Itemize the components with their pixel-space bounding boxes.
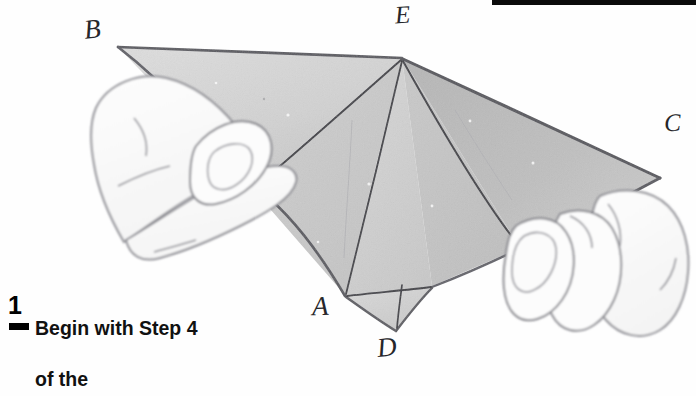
vertex-label-e: E xyxy=(394,1,411,27)
page-root: B E C A D 1 Begin with Step 4 of the Wat… xyxy=(0,0,696,396)
vertex-label-b: B xyxy=(83,15,102,44)
vertex-label-c: C xyxy=(663,110,681,136)
caption-line-1: Begin with Step 4 xyxy=(35,316,260,342)
caption-line-2: of the xyxy=(35,367,260,393)
vertex-label-d: D xyxy=(376,333,398,362)
caption-text: Begin with Step 4 of the Waterbomb proje… xyxy=(5,290,260,396)
vertex-label-a: A xyxy=(312,293,329,321)
